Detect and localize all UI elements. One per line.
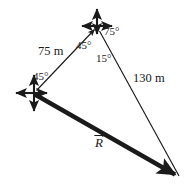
vector-diagram-canvas — [0, 0, 194, 187]
label-angle-top-right: 75° — [104, 26, 119, 37]
label-angle-top-below: 15° — [96, 53, 111, 64]
resultant-symbol-wrap: R — [95, 135, 103, 149]
resultant-letter: R — [95, 135, 103, 150]
label-vector-130m: 130 m — [133, 72, 165, 85]
vector-line-resultant — [35, 95, 175, 175]
label-angle-top-left: 45° — [76, 40, 91, 51]
vector-diagram-figure: 75 m 130 m R 45° 75° 15° 45° — [0, 0, 194, 187]
label-angle-left: 45° — [33, 71, 48, 82]
label-vector-75m: 75 m — [38, 45, 63, 58]
label-vector-resultant: R — [95, 135, 103, 149]
